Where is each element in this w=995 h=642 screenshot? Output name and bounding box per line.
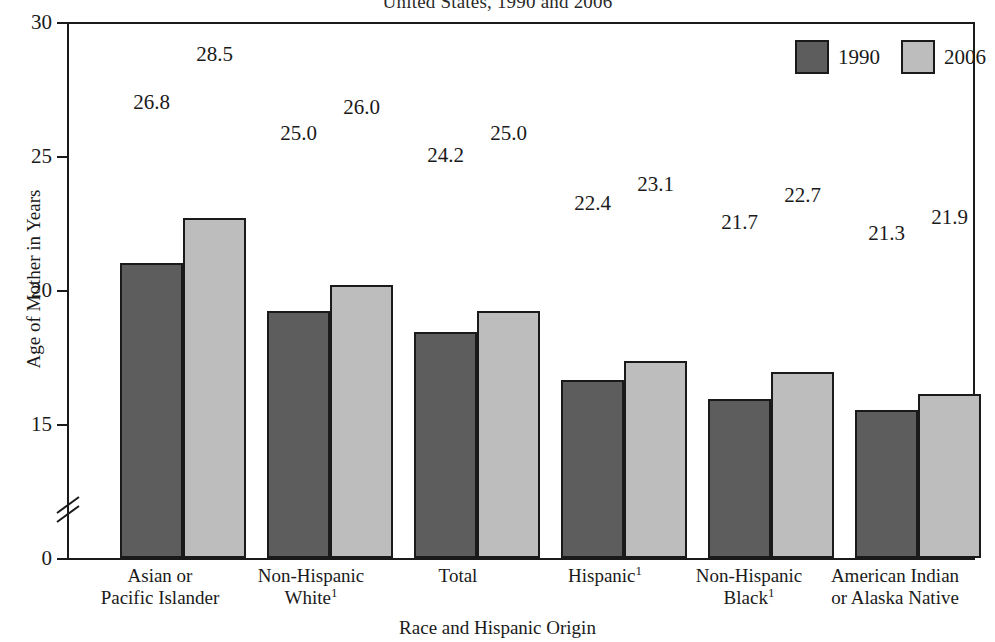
bar-1990-hispanic[interactable]	[561, 380, 624, 558]
bar-value-1990-total: 24.2	[414, 145, 477, 166]
bar-value-2006-asian-pacific-islander: 28.5	[183, 44, 246, 65]
x-axis-title: Race and Hispanic Origin	[0, 617, 995, 639]
bar-1990-non-hispanic-white[interactable]	[267, 311, 330, 558]
bar-2006-hispanic[interactable]	[624, 361, 687, 558]
chart-title: United States, 1990 and 2006	[0, 0, 995, 13]
bar-chart: United States, 1990 and 2006 30 25 20 15…	[0, 0, 995, 642]
bar-2006-american-indian-alaska-native[interactable]	[918, 394, 981, 558]
footnote-marker: 1	[636, 563, 642, 578]
bar-2006-total[interactable]	[477, 311, 540, 558]
x-cat-line1: Non-Hispanic	[258, 565, 365, 586]
bar-value-1990-hispanic: 22.4	[561, 193, 624, 214]
bar-value-1990-non-hispanic-white: 25.0	[267, 123, 330, 144]
bars-layer	[69, 24, 973, 558]
x-cat-line2-text: Black	[724, 587, 768, 608]
x-cat-line1: Total	[439, 565, 478, 586]
x-cat-line1: Asian or	[128, 565, 193, 586]
y-axis-label-30: 30	[31, 12, 52, 33]
bar-value-2006-total: 25.0	[477, 123, 540, 144]
footnote-marker: 1	[768, 585, 774, 600]
y-axis-title: Age of Mother in Years	[23, 69, 45, 489]
bar-2006-non-hispanic-white[interactable]	[330, 285, 393, 558]
x-cat-line2-text: White	[285, 587, 331, 608]
x-cat-line2: or Alaska Native	[795, 587, 995, 609]
bar-value-1990-american-indian-alaska-native: 21.3	[855, 223, 918, 244]
bar-1990-american-indian-alaska-native[interactable]	[855, 410, 918, 558]
x-axis-category-american-indian-alaska-native: American Indian or Alaska Native	[795, 565, 995, 609]
bar-value-1990-asian-pacific-islander: 26.8	[120, 92, 183, 113]
y-axis-tick-20	[57, 290, 67, 292]
bar-value-2006-american-indian-alaska-native: 21.9	[918, 207, 981, 228]
x-cat-line1: Hispanic1	[568, 565, 642, 586]
footnote-marker: 1	[331, 585, 337, 600]
y-axis-tick-15	[57, 424, 67, 426]
x-cat-line1-text: Hispanic	[568, 565, 636, 586]
bar-2006-asian-pacific-islander[interactable]	[183, 218, 246, 558]
bar-value-1990-non-hispanic-black: 21.7	[708, 212, 771, 233]
x-cat-line2: White1	[211, 587, 411, 609]
bar-value-2006-hispanic: 23.1	[624, 174, 687, 195]
bar-1990-total[interactable]	[414, 332, 477, 558]
y-axis-tick-0	[57, 558, 67, 560]
bar-2006-non-hispanic-black[interactable]	[771, 372, 834, 558]
bar-value-2006-non-hispanic-black: 22.7	[771, 185, 834, 206]
y-axis-tick-25	[57, 156, 67, 158]
x-cat-line1: American Indian	[831, 565, 959, 586]
bar-value-2006-non-hispanic-white: 26.0	[330, 97, 393, 118]
y-axis-tick-30	[57, 22, 67, 24]
y-axis-label-0: 0	[42, 548, 53, 569]
bar-1990-non-hispanic-black[interactable]	[708, 399, 771, 558]
x-cat-line1: Non-Hispanic	[696, 565, 803, 586]
bar-1990-asian-pacific-islander[interactable]	[120, 263, 183, 558]
